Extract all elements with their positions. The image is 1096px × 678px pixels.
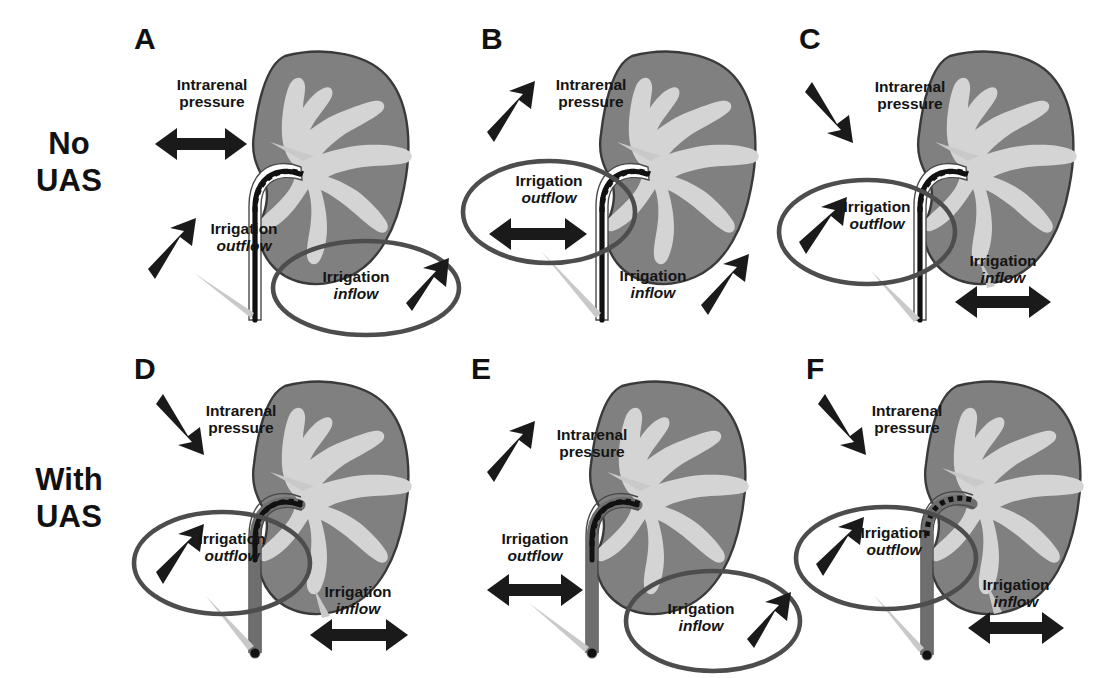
arrow-intrarenal-pressure <box>487 81 535 142</box>
panel-c: C <box>783 20 1096 359</box>
inflow-line1: Irrigation <box>955 252 1051 269</box>
double-arrow-horizontal-icon <box>487 574 583 606</box>
label-irrigation-outflow: Irrigation outflow <box>501 172 597 207</box>
label-intrarenal-pressure: Intrarenal pressure <box>186 402 296 437</box>
intrarenal-line2: pressure <box>855 95 965 112</box>
arrow-irrigation-inflow <box>955 286 1051 318</box>
intrarenal-line1: Intrarenal <box>186 402 296 419</box>
arrow-up-right-icon <box>487 421 535 482</box>
intrarenal-line2: pressure <box>157 93 267 110</box>
leader-line-outflow <box>206 596 254 650</box>
inflow-line1: Irrigation <box>968 576 1064 593</box>
label-intrarenal-pressure: Intrarenal pressure <box>537 426 647 461</box>
label-irrigation-outflow: Irrigation outflow <box>487 530 583 565</box>
label-irrigation-inflow: Irrigation inflow <box>310 583 406 618</box>
intrarenal-line1: Intrarenal <box>852 402 962 419</box>
intrarenal-line2: pressure <box>536 93 646 110</box>
intrarenal-line2: pressure <box>186 419 296 436</box>
label-irrigation-outflow: Irrigation outflow <box>184 530 280 565</box>
arrow-intrarenal-pressure <box>487 421 535 482</box>
arrow-intrarenal-pressure <box>805 82 853 143</box>
inflow-line2: inflow <box>955 269 1051 286</box>
label-intrarenal-pressure: Intrarenal pressure <box>157 76 267 111</box>
inflow-line2: inflow <box>653 617 749 634</box>
label-irrigation-inflow: Irrigation inflow <box>308 268 404 303</box>
outflow-line1: Irrigation <box>846 524 942 541</box>
outflow-line1: Irrigation <box>829 198 925 215</box>
panel-d-illustration <box>118 350 483 678</box>
arrow-irrigation-inflow <box>968 612 1064 644</box>
double-arrow-horizontal-icon <box>968 612 1064 644</box>
arrow-irrigation-outflow <box>148 218 196 279</box>
intrarenal-line1: Intrarenal <box>157 76 267 93</box>
arrow-up-right-icon <box>487 81 535 142</box>
inflow-line2: inflow <box>968 593 1064 610</box>
arrow-up-right-icon <box>148 218 196 279</box>
outflow-line1: Irrigation <box>184 530 280 547</box>
outflow-line1: Irrigation <box>487 530 583 547</box>
label-intrarenal-pressure: Intrarenal pressure <box>536 76 646 111</box>
inflow-line1: Irrigation <box>310 583 406 600</box>
intrarenal-line1: Intrarenal <box>536 76 646 93</box>
label-irrigation-outflow: Irrigation outflow <box>196 220 292 255</box>
outflow-line1: Irrigation <box>501 172 597 189</box>
inflow-line1: Irrigation <box>308 268 404 285</box>
label-irrigation-outflow: Irrigation outflow <box>846 524 942 559</box>
double-arrow-horizontal-icon <box>155 128 247 160</box>
label-irrigation-inflow: Irrigation inflow <box>653 600 749 635</box>
intrarenal-line1: Intrarenal <box>855 78 965 95</box>
row-label-with-uas-line1: With <box>4 462 134 499</box>
row-label-no-uas-line2: UAS <box>4 163 134 200</box>
panel-b: B <box>465 20 830 359</box>
outflow-line2: outflow <box>501 189 597 206</box>
label-irrigation-inflow: Irrigation inflow <box>955 252 1051 287</box>
arrow-irrigation-inflow <box>310 619 408 651</box>
outflow-line2: outflow <box>829 215 925 232</box>
double-arrow-horizontal-icon <box>489 218 587 250</box>
label-irrigation-inflow: Irrigation inflow <box>968 576 1064 611</box>
panel-a-illustration <box>118 20 483 359</box>
outflow-line1: Irrigation <box>196 220 292 237</box>
intrarenal-line2: pressure <box>852 419 962 436</box>
arrow-up-right-icon <box>406 258 449 311</box>
leader-line-outflow <box>194 273 254 318</box>
sheath-tip <box>922 650 931 659</box>
sheath-tip <box>587 648 596 657</box>
label-intrarenal-pressure: Intrarenal pressure <box>852 402 962 437</box>
outflow-line2: outflow <box>184 547 280 564</box>
label-irrigation-outflow: Irrigation outflow <box>829 198 925 233</box>
inflow-line2: inflow <box>308 285 404 302</box>
arrow-intrarenal-pressure <box>155 128 247 160</box>
outflow-line2: outflow <box>196 237 292 254</box>
double-arrow-horizontal-icon <box>955 286 1051 318</box>
label-intrarenal-pressure: Intrarenal pressure <box>855 78 965 113</box>
arrow-up-right-icon <box>747 592 791 648</box>
sheath-tip <box>250 648 259 657</box>
arrow-down-right-icon <box>805 82 853 143</box>
inflow-line2: inflow <box>605 284 701 301</box>
panel-a: A <box>118 20 483 359</box>
outflow-line2: outflow <box>487 547 583 564</box>
inflow-line1: Irrigation <box>605 267 701 284</box>
leader-line-outflow <box>529 603 589 652</box>
double-arrow-horizontal-icon <box>310 619 408 651</box>
arrow-irrigation-outflow <box>487 574 583 606</box>
inflow-line1: Irrigation <box>653 600 749 617</box>
panel-e: E <box>455 350 820 678</box>
panel-f: F <box>790 350 1096 678</box>
inflow-line2: inflow <box>310 600 406 617</box>
intrarenal-line2: pressure <box>537 443 647 460</box>
panel-d: D <box>118 350 483 678</box>
leader-line-outflow <box>874 595 924 652</box>
label-irrigation-inflow: Irrigation inflow <box>605 267 701 302</box>
row-label-no-uas: No UAS <box>4 126 134 199</box>
panel-e-illustration <box>455 350 820 678</box>
panel-f-illustration <box>790 350 1096 678</box>
outflow-line2: outflow <box>846 541 942 558</box>
row-label-no-uas-line1: No <box>4 126 134 163</box>
figure-canvas: No UAS With UAS A <box>0 0 1096 678</box>
row-label-with-uas: With UAS <box>4 462 134 535</box>
row-label-with-uas-line2: UAS <box>4 499 134 536</box>
panel-c-illustration <box>783 20 1096 359</box>
intrarenal-line1: Intrarenal <box>537 426 647 443</box>
